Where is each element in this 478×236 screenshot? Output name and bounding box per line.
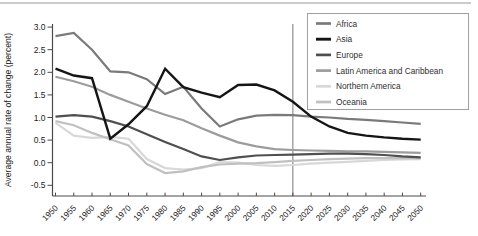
legend-item-latin-america-and-caribbean: Latin America and Caribbean — [316, 66, 443, 76]
rate-of-change-chart: 3.02.52.01.51.00.50.0-0.5195019551960196… — [0, 0, 478, 236]
y-tick-label: 2.0 — [34, 67, 46, 77]
legend-label: Africa — [336, 19, 358, 29]
figure-rate-of-change: 3.02.52.01.51.00.50.0-0.5195019551960196… — [0, 0, 478, 236]
y-axis-title: Average annual rate of change (percent) — [3, 33, 13, 187]
legend-label: Northern America — [336, 81, 401, 91]
y-tick-label: 1.5 — [34, 90, 46, 100]
y-tick-label: -0.5 — [31, 180, 46, 190]
legend-label: Oceania — [336, 97, 367, 107]
y-tick-label: 3.0 — [34, 22, 46, 32]
legend-label: Latin America and Caribbean — [336, 66, 443, 76]
y-tick-label: 0.0 — [34, 158, 46, 168]
legend-box — [308, 14, 469, 110]
y-tick-label: 1.0 — [34, 113, 46, 123]
legend-label: Europe — [336, 50, 363, 60]
y-tick-label: 0.5 — [34, 135, 46, 145]
legend: AfricaAsiaEuropeLatin America and Caribb… — [308, 14, 469, 110]
y-tick-label: 2.5 — [34, 45, 46, 55]
legend-label: Asia — [336, 34, 353, 44]
